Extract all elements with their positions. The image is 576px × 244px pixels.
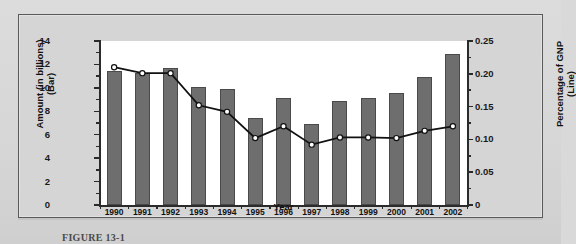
right-tick <box>468 171 473 173</box>
bar-2002 <box>445 54 460 205</box>
bar-2001 <box>417 77 432 205</box>
left-minor-tick <box>96 52 99 54</box>
right-tick-label: 0 <box>475 199 480 210</box>
left-minor-tick <box>96 99 99 101</box>
left-tick <box>94 64 99 66</box>
right-tick <box>468 139 473 141</box>
left-minor-tick <box>96 193 99 195</box>
right-axis-title: Percentage of GNP(Line) <box>554 14 576 154</box>
bar-1993 <box>191 87 206 205</box>
bar-1996 <box>276 98 291 205</box>
bar-1994 <box>220 89 235 205</box>
left-axis-line <box>99 40 101 206</box>
left-tick <box>94 134 99 136</box>
right-tick <box>468 204 473 206</box>
right-tick-label: 0.10 <box>475 133 494 144</box>
right-minor-tick <box>468 89 471 91</box>
right-minor-tick <box>468 188 471 190</box>
bar-2000 <box>389 93 404 205</box>
left-minor-tick <box>96 146 99 148</box>
right-tick-label: 0.05 <box>475 166 494 177</box>
left-tick <box>94 40 99 42</box>
left-tick <box>94 87 99 89</box>
x-axis-title: Year <box>100 201 467 212</box>
right-tick <box>468 106 473 108</box>
left-minor-tick <box>96 169 99 171</box>
right-minor-tick <box>468 155 471 157</box>
left-minor-tick <box>96 75 99 77</box>
left-tick-label: 2 <box>45 176 50 187</box>
left-minor-tick <box>96 122 99 124</box>
bar-1991 <box>135 73 150 205</box>
right-tick-label: 0.20 <box>475 68 494 79</box>
bar-1992 <box>163 68 178 205</box>
chart-frame: 02468101214 00.050.100.150.200.25 199019… <box>18 14 543 218</box>
right-minor-tick <box>468 57 471 59</box>
bar-1995 <box>248 118 263 205</box>
bar-1990 <box>107 71 122 205</box>
left-tick <box>94 157 99 159</box>
left-tick-label: 0 <box>45 199 50 210</box>
left-tick <box>94 111 99 113</box>
left-tick <box>94 181 99 183</box>
right-tick-label: 0.15 <box>475 101 494 112</box>
right-tick-label: 0.25 <box>475 35 494 46</box>
right-tick <box>468 40 473 42</box>
bar-1998 <box>332 101 347 205</box>
bar-1999 <box>361 98 376 205</box>
figure-caption: FIGURE 13-1 <box>62 232 125 243</box>
left-tick <box>94 204 99 206</box>
right-tick <box>468 73 473 75</box>
frame-shadow <box>18 218 543 220</box>
right-minor-tick <box>468 122 471 124</box>
left-axis-title: Amount (in billions)(Bar) <box>34 14 56 154</box>
bar-1997 <box>304 124 319 205</box>
